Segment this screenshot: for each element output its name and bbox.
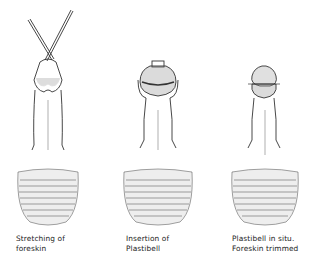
panel-insertion: Insertion of Plastibell — [110, 0, 210, 270]
illustration-stretching — [0, 0, 105, 230]
scrotum-shading — [232, 169, 299, 225]
caption-insertion: Insertion of Plastibell — [126, 234, 169, 254]
illustration-insertion — [110, 0, 210, 230]
caption-line: foreskin — [16, 244, 65, 254]
caption-in-situ: Plastibell in situ. Foreskin trimmed — [232, 234, 298, 254]
scrotum-shading — [124, 169, 193, 225]
illustration-in-situ — [210, 0, 313, 230]
caption-stretching: Stretching of foreskin — [16, 234, 65, 254]
caption-line: Stretching of — [16, 234, 65, 244]
plastibell-icon — [248, 66, 280, 98]
panel-in-situ: Plastibell in situ. Foreskin trimmed — [210, 0, 313, 270]
caption-line: Plastibell — [126, 244, 169, 254]
caption-line: Insertion of — [126, 234, 169, 244]
caption-line: Plastibell in situ. — [232, 234, 298, 244]
forceps-icon — [28, 10, 73, 61]
panel-stretching: Stretching of foreskin — [0, 0, 105, 270]
scrotum-shading — [18, 169, 79, 225]
plastibell-icon — [138, 61, 178, 98]
caption-line: Foreskin trimmed — [232, 244, 298, 254]
